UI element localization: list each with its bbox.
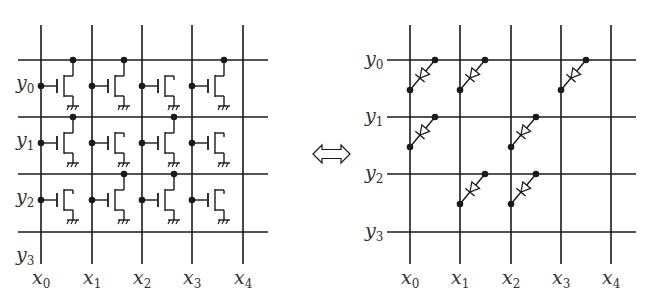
diode-icon [407, 57, 439, 94]
diode-crossbar-panel: x0x1x2x3x4y0y1y2y3 [364, 25, 636, 291]
crossbar-equivalence-diagram: x0x1x2x3x4y0y1y2y3 x0x1x2x3x4y0y1y2y3 [0, 0, 648, 308]
ground-icon [67, 163, 79, 167]
transistor-icon [189, 57, 230, 110]
column-label-x3: x3 [552, 266, 570, 291]
column-label-x1: x1 [83, 266, 101, 291]
transistor-icon [139, 75, 180, 110]
transistor-icon [139, 171, 180, 224]
row-label-y2: y2 [15, 185, 34, 210]
column-junction-dot [508, 144, 515, 151]
row-label-y3: y3 [15, 243, 34, 268]
column-junction-dot [508, 201, 515, 208]
drain-junction-dot [171, 114, 178, 121]
drain-junction-dot [121, 57, 128, 64]
double-arrow-icon [313, 145, 350, 163]
column-junction-dot [407, 144, 414, 151]
row-label-y0: y0 [364, 47, 383, 72]
column-label-x1: x1 [451, 266, 469, 291]
column-junction-dot [558, 87, 565, 94]
row-label-y3: y3 [364, 219, 383, 244]
row-junction-dot [432, 114, 439, 121]
transistor-icon [89, 132, 130, 167]
drain-junction-dot [171, 171, 178, 178]
drain-junction-dot [70, 114, 77, 121]
row-junction-dot [533, 171, 540, 178]
ground-icon [218, 220, 230, 224]
diode-icon [508, 171, 540, 208]
ground-icon [118, 163, 130, 167]
transistor-crossbar-panel: x0x1x2x3x4y0y1y2y3 [15, 25, 268, 291]
row-junction-dot [432, 57, 439, 64]
row-junction-dot [482, 171, 489, 178]
row-junction-dot [533, 114, 540, 121]
row-label-y1: y1 [15, 128, 34, 153]
ground-icon [118, 220, 130, 224]
ground-icon [218, 106, 230, 110]
diode-icon [457, 57, 489, 94]
column-label-x3: x3 [183, 266, 201, 291]
transistor-icon [38, 57, 79, 110]
transistor-icon [38, 189, 79, 224]
column-label-x0: x0 [401, 266, 419, 291]
ground-icon [67, 106, 79, 110]
row-junction-dot [482, 57, 489, 64]
drain-junction-dot [70, 57, 77, 64]
column-label-x0: x0 [32, 266, 50, 291]
drain-junction-dot [121, 171, 128, 178]
diode-icon [508, 114, 540, 151]
ground-icon [168, 220, 180, 224]
row-label-y1: y1 [364, 104, 383, 129]
column-junction-dot [407, 87, 414, 94]
ground-icon [168, 163, 180, 167]
row-junction-dot [583, 57, 590, 64]
transistor-icon [89, 171, 130, 224]
transistor-icon [189, 189, 230, 224]
transistor-icon [139, 114, 180, 167]
column-label-x2: x2 [502, 266, 520, 291]
row-label-y2: y2 [364, 161, 383, 186]
column-label-x4: x4 [602, 266, 621, 291]
diode-icon [558, 57, 590, 94]
ground-icon [218, 163, 230, 167]
ground-icon [168, 106, 180, 110]
transistor-icon [89, 57, 130, 110]
column-label-x2: x2 [133, 266, 151, 291]
transistor-icon [189, 132, 230, 167]
drain-junction-dot [221, 57, 228, 64]
ground-icon [118, 106, 130, 110]
column-junction-dot [457, 201, 464, 208]
transistor-icon [38, 114, 79, 167]
ground-icon [67, 220, 79, 224]
diode-icon [457, 171, 489, 208]
column-junction-dot [457, 87, 464, 94]
diode-icon [407, 114, 439, 151]
row-label-y0: y0 [15, 71, 34, 96]
column-label-x4: x4 [234, 266, 253, 291]
